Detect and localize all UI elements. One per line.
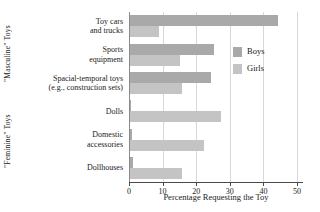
category-label-line: Toy cars — [17, 17, 123, 26]
category-label: Domesticaccessories — [17, 130, 123, 148]
category-label-line: Dolls — [17, 107, 123, 116]
legend-label-boys: Boys — [247, 46, 264, 57]
category-label: Dolls — [17, 107, 123, 116]
gridline — [297, 12, 298, 182]
bar-chart: "Masculine" Toys "Feminine" Toys Toy car… — [0, 0, 320, 212]
gridline — [196, 12, 197, 182]
legend-swatch-girls — [233, 64, 242, 74]
category-label: Sportsequipment — [17, 45, 123, 63]
category-label-line: accessories — [17, 140, 123, 149]
bar-boys-3 — [130, 100, 131, 111]
category-label-line: (e.g., construction sets) — [17, 83, 123, 92]
x-axis-title: Percentage Requesting the Toy — [129, 192, 303, 202]
category-label-line: Spacial-temporal toys — [17, 74, 123, 83]
legend-swatch-boys — [233, 47, 242, 57]
category-label-line: Sports — [17, 45, 123, 54]
bar-boys-4 — [130, 129, 132, 140]
legend-label-girls: Girls — [247, 63, 264, 74]
bar-boys-5 — [130, 157, 133, 168]
category-label-line: Domestic — [17, 130, 123, 139]
group-label-feminine: "Feminine" Toys — [3, 100, 12, 182]
category-label: Spacial-temporal toys(e.g., construction… — [17, 74, 123, 92]
bar-girls-2 — [130, 83, 182, 94]
legend-item-girls: Girls — [233, 63, 264, 74]
bar-girls-0 — [130, 26, 159, 37]
group-label-masculine: "Masculine" Toys — [3, 12, 12, 96]
legend-item-boys: Boys — [233, 46, 264, 57]
bar-boys-2 — [130, 72, 211, 83]
category-label: Dollhouses — [17, 163, 123, 172]
bar-boys-1 — [130, 44, 214, 55]
category-label-line: Dollhouses — [17, 163, 123, 172]
category-label-column: Toy carsand trucksSportsequipmentSpacial… — [18, 12, 126, 182]
bar-girls-5 — [130, 168, 182, 179]
legend: Boys Girls — [233, 46, 264, 80]
category-label-line: equipment — [17, 55, 123, 64]
bar-girls-4 — [130, 140, 204, 151]
gridline — [263, 12, 264, 182]
x-axis-line — [129, 182, 303, 183]
category-label: Toy carsand trucks — [17, 17, 123, 35]
bar-girls-1 — [130, 55, 180, 66]
gridline — [230, 12, 231, 182]
bar-girls-3 — [130, 111, 221, 122]
bar-boys-0 — [130, 15, 278, 26]
gridline — [163, 12, 164, 182]
plot-area: 01020304050 — [129, 12, 297, 182]
category-label-line: and trucks — [17, 26, 123, 35]
